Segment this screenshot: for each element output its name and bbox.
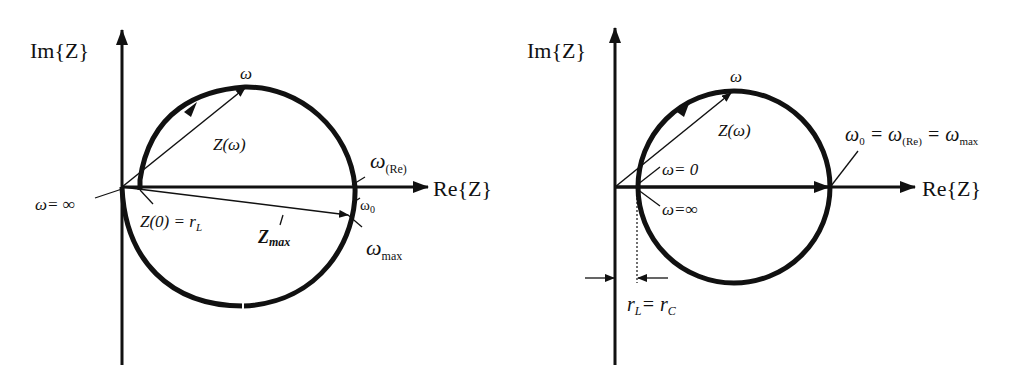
left-omega-top-label: ω: [240, 64, 252, 83]
right-diagram: Im{Z} Re{Z} ω Z(ω) ω= 0 ω=∞ ω0 = ω(Re) =…: [527, 28, 981, 365]
left-zmax-vector: [122, 187, 348, 215]
left-omega-inf-label: ω= ∞: [35, 195, 75, 214]
left-omega-re-label: ω(Re): [370, 148, 407, 176]
left-diagram: Im{Z} Re{Z} ω Z(ω) ω(Re) ω= ∞ Z(0) = rL …: [30, 30, 492, 365]
left-z-omega-label: Z(ω): [213, 135, 246, 154]
right-omega-zero-label: ω= 0: [662, 160, 699, 179]
left-im-axis-label: Im{Z}: [30, 38, 89, 63]
right-omega-top-label: ω: [730, 67, 742, 86]
left-re-axis-label: Re{Z}: [433, 176, 492, 201]
impedance-locus-diagrams: Im{Z} Re{Z} ω Z(ω) ω(Re) ω= ∞ Z(0) = rL …: [0, 0, 1035, 386]
right-re-axis-label: Re{Z}: [922, 176, 981, 201]
left-omega-max-label: ωmax: [366, 235, 402, 263]
right-im-axis-label: Im{Z}: [527, 38, 586, 63]
right-omega-inf-label: ω=∞: [662, 200, 698, 219]
left-omega0-label: ω0: [360, 197, 375, 215]
right-resonance-equation: ω0 = ω(Re) = ωmax: [845, 123, 979, 148]
right-z-omega-label: Z(ω): [718, 121, 751, 140]
left-z0-label: Z(0) = rL: [140, 212, 202, 233]
left-zmax-label: Zmax: [257, 227, 290, 249]
left-impedance-locus: [122, 87, 355, 306]
rl-equals-rc-label: rL= rC: [627, 293, 677, 318]
